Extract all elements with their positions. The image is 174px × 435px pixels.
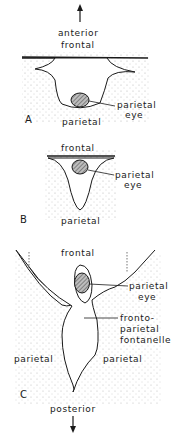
- parietal-eye-shape: [75, 273, 90, 293]
- panel-b-eye-label-1: parietal: [115, 170, 154, 180]
- panel-c-frontal-label: frontal: [61, 248, 95, 258]
- parietal-eye-shape: [72, 160, 88, 174]
- panel-c-fontanelle-label-2: parietal: [120, 324, 159, 334]
- panel-c-figure-letter: C: [20, 390, 28, 400]
- panel-a-frontal-label: frontal: [61, 40, 95, 50]
- panel-c-fontanelle-label-1: fronto-: [120, 313, 155, 323]
- panel-c-eye-label-2: eye: [138, 292, 156, 302]
- panel-a-eye-label-2: eye: [125, 110, 143, 120]
- panel-b-eye-label-2: eye: [124, 180, 142, 190]
- panel-a-eye-label-1: parietal: [117, 100, 156, 110]
- panel-c-fontanelle-label-3: fontanelle: [120, 335, 171, 345]
- posterior-arrow-icon: [70, 416, 76, 433]
- panel-b-parietal-label: parietal: [61, 216, 100, 226]
- panel-c-left-parietal-label: parietal: [14, 354, 53, 364]
- panel-a-figure-letter: A: [25, 115, 32, 125]
- panel-b: [45, 150, 117, 220]
- panel-c-right-parietal-label: parietal: [103, 354, 142, 364]
- posterior-label: posterior: [50, 404, 96, 414]
- anterior-label: anterior: [58, 28, 99, 38]
- panel-c-eye-label-1: parietal: [129, 281, 168, 291]
- anterior-arrow-icon: [77, 4, 83, 22]
- parietal-eye-shape: [71, 93, 89, 107]
- panel-b-frontal-label: frontal: [61, 143, 95, 153]
- panel-a-parietal-label: parietal: [62, 117, 101, 127]
- panel-b-figure-letter: B: [20, 215, 27, 225]
